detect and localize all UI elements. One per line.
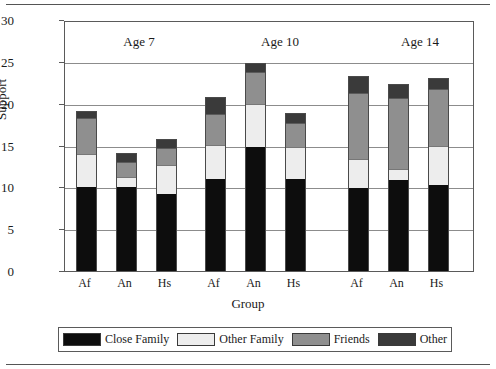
x-tick-label-7: An bbox=[382, 276, 412, 291]
bar-segment-close bbox=[77, 187, 96, 271]
gridline-25 bbox=[65, 63, 473, 64]
stacked-bar-age-7-af bbox=[76, 111, 97, 271]
bar-segment-otherf bbox=[117, 177, 136, 187]
gridline-20 bbox=[65, 105, 473, 106]
y-tick-label-0: 0 bbox=[0, 265, 14, 278]
age-group-label-age-10: Age 10 bbox=[240, 34, 320, 50]
bar-segment-friends bbox=[206, 114, 225, 146]
gridline-15 bbox=[65, 147, 473, 148]
bar-segment-otherf bbox=[157, 165, 176, 194]
legend-label-other-family: Other Family bbox=[219, 332, 283, 347]
legend-swatch-close-family bbox=[63, 333, 101, 346]
bar-segment-other bbox=[389, 85, 408, 98]
bar-segment-friends bbox=[389, 98, 408, 169]
bar-segment-close bbox=[117, 187, 136, 271]
bar-segment-friends bbox=[286, 123, 305, 147]
stacked-bar-age-7-hs bbox=[156, 139, 177, 271]
y-tick-label-25: 25 bbox=[0, 56, 14, 69]
bar-segment-otherf bbox=[389, 169, 408, 180]
figure: Support 051015202530 Age 7Age 10Age 14 A… bbox=[0, 0, 496, 369]
bar-segment-other bbox=[349, 77, 368, 93]
bar-segment-close bbox=[389, 180, 408, 271]
stacked-bar-age-10-af bbox=[205, 97, 226, 271]
bar-segment-close bbox=[246, 147, 265, 271]
bar-segment-friends bbox=[349, 93, 368, 159]
bar-segment-close bbox=[206, 179, 225, 271]
legend-swatch-other-family bbox=[177, 333, 215, 346]
bar-segment-other bbox=[286, 114, 305, 123]
chart-legend: Close Family Other Family Friends Other bbox=[58, 327, 452, 352]
x-tick-label-8: Hs bbox=[422, 276, 452, 291]
age-group-label-age-14: Age 14 bbox=[380, 34, 460, 50]
bar-segment-other bbox=[206, 98, 225, 114]
legend-item-friends: Friends bbox=[292, 332, 370, 347]
bar-segment-other bbox=[157, 140, 176, 148]
x-tick-label-3: Af bbox=[199, 276, 229, 291]
bar-segment-friends bbox=[77, 118, 96, 154]
bar-segment-otherf bbox=[429, 146, 448, 185]
legend-label-friends: Friends bbox=[334, 332, 370, 347]
x-tick-label-6: Af bbox=[342, 276, 372, 291]
legend-swatch-other bbox=[378, 333, 416, 346]
bar-segment-other bbox=[117, 154, 136, 162]
x-tick-label-4: An bbox=[239, 276, 269, 291]
bar-segment-otherf bbox=[77, 154, 96, 187]
x-tick-label-2: Hs bbox=[150, 276, 180, 291]
legend-label-close-family: Close Family bbox=[105, 332, 169, 347]
bar-segment-close bbox=[157, 194, 176, 271]
stacked-bar-age-14-hs bbox=[428, 78, 449, 271]
bar-segment-close bbox=[349, 188, 368, 271]
legend-item-other-family: Other Family bbox=[177, 332, 283, 347]
legend-label-other: Other bbox=[420, 332, 447, 347]
bar-segment-otherf bbox=[206, 145, 225, 178]
legend-item-other: Other bbox=[378, 332, 447, 347]
bar-segment-close bbox=[286, 179, 305, 271]
stacked-bar-age-10-an bbox=[245, 63, 266, 271]
stacked-bar-age-14-an bbox=[388, 84, 409, 271]
bar-segment-otherf bbox=[286, 147, 305, 179]
stacked-bar-age-10-hs bbox=[285, 113, 306, 271]
bar-segment-friends bbox=[157, 148, 176, 165]
bar-segment-otherf bbox=[349, 159, 368, 188]
y-tick-label-10: 10 bbox=[0, 181, 14, 194]
y-tick-label-15: 15 bbox=[0, 140, 14, 153]
legend-swatch-friends bbox=[292, 333, 330, 346]
age-group-label-age-7: Age 7 bbox=[99, 34, 179, 50]
x-tick-label-1: An bbox=[110, 276, 140, 291]
y-tick-label-30: 30 bbox=[0, 14, 14, 27]
legend-item-close-family: Close Family bbox=[63, 332, 169, 347]
x-tick-label-0: Af bbox=[70, 276, 100, 291]
bar-segment-close bbox=[429, 185, 448, 271]
y-tick-label-20: 20 bbox=[0, 98, 14, 111]
bar-segment-other bbox=[429, 79, 448, 89]
stacked-bar-age-7-an bbox=[116, 153, 137, 271]
bar-segment-otherf bbox=[246, 104, 265, 148]
y-tick-label-5: 5 bbox=[0, 223, 14, 236]
figure-bottom-rule bbox=[6, 364, 490, 365]
x-axis-label: Group bbox=[0, 296, 496, 312]
bar-segment-other bbox=[246, 64, 265, 72]
figure-top-rule bbox=[6, 4, 490, 5]
plot-area: Age 7Age 10Age 14 bbox=[64, 21, 474, 272]
bar-segment-friends bbox=[429, 89, 448, 146]
bar-segment-friends bbox=[117, 162, 136, 177]
x-tick-label-5: Hs bbox=[279, 276, 309, 291]
stacked-bar-age-14-af bbox=[348, 76, 369, 271]
bar-segment-friends bbox=[246, 72, 265, 104]
